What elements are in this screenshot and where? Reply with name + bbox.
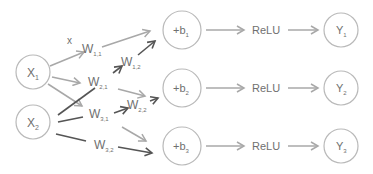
input-node-x1: X1 (16, 55, 50, 89)
relu-label-3: ReLU (252, 140, 280, 152)
weight-label-w11: W1,1 (82, 42, 102, 57)
output-node-y1: Y1 (324, 13, 358, 47)
multiply-symbol: x (67, 35, 72, 46)
edge-x2-w12 (58, 41, 155, 115)
relu-label-1: ReLU (252, 24, 280, 36)
edge-x1-w31 (48, 84, 82, 106)
input-node-x2: X2 (16, 105, 50, 139)
weight-label-w22: W2,2 (127, 98, 147, 113)
weight-label-w12: W1,2 (121, 55, 141, 70)
edge-w31-b3 (122, 127, 146, 141)
bias-node-b2: +b2 (163, 69, 201, 107)
bias-node-b3: +b3 (163, 127, 201, 165)
edge-x1-w11 (50, 31, 150, 66)
neural-network-diagram: X1 X2 x W1,1 W1,2 W2,1 W2,2 W3,1 W3,2 +b… (0, 0, 373, 174)
weight-label-w32: W3,2 (94, 138, 114, 153)
relu-label-2: ReLU (252, 82, 280, 94)
weight-label-w31: W3,1 (89, 107, 109, 122)
bias-node-b1: +b1 (163, 11, 201, 49)
weight-label-w21: W2,1 (88, 75, 108, 90)
output-node-y2: Y2 (324, 71, 358, 105)
output-node-y3: Y3 (324, 129, 358, 163)
